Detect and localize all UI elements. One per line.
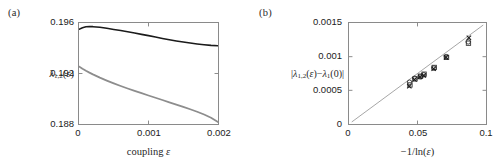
panel-b-plot-svg <box>349 23 486 124</box>
panel-a-plot-svg <box>79 23 218 124</box>
panel-a-x-axis-title: coupling ε <box>78 146 219 157</box>
panel-a-xtick-0001: 0.001 <box>134 128 164 138</box>
panel-a-ytick-0196: 0.196 <box>38 17 74 27</box>
panel-a: (a) 0.196 0.192 0.188 0 0.001 0.002 λ1,2… <box>0 0 250 167</box>
panel-a-xtick-0: 0 <box>64 128 92 138</box>
panel-a-label: (a) <box>8 7 20 18</box>
panel-b-y-axis-title: |λ1,2(ε)−λ1(0)| <box>250 68 344 80</box>
panel-a-y-axis-title: λ1,2(ε) <box>2 68 74 80</box>
panel-b-xtick-005: 0.05 <box>403 128 433 138</box>
panel-b-label: (b) <box>259 7 272 18</box>
panel-a-x-axis-word: coupling <box>127 146 164 157</box>
panel-b-ytick-00015: 0.0015 <box>296 17 342 27</box>
panel-b-ytick-00005: 0.0005 <box>296 85 342 95</box>
panel-b-plot-area <box>348 22 487 125</box>
panel-b-xtick-0: 0 <box>334 128 362 138</box>
panel-b-x-axis-title: −1/ln(ε) <box>348 146 487 157</box>
panel-a-xtick-0002: 0.002 <box>204 128 234 138</box>
panel-a-x-axis-symbol: ε <box>166 146 170 157</box>
panel-b-ytick-0001: 0.001 <box>296 51 342 61</box>
panel-a-plot-area <box>78 22 219 125</box>
figure-container: (a) 0.196 0.192 0.188 0 0.001 0.002 λ1,2… <box>0 0 499 167</box>
panel-b-xtick-01: 0.1 <box>472 128 499 138</box>
